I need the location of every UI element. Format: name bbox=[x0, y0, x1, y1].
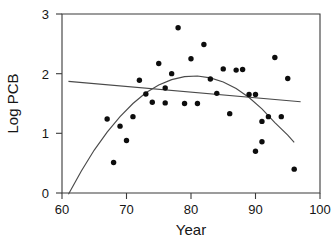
data-point bbox=[285, 76, 290, 81]
data-point bbox=[137, 78, 142, 83]
data-point bbox=[163, 85, 168, 90]
data-point bbox=[259, 119, 264, 124]
data-point bbox=[266, 114, 271, 119]
data-point bbox=[182, 101, 187, 106]
data-point bbox=[124, 138, 129, 143]
data-point bbox=[221, 66, 226, 71]
data-point bbox=[117, 123, 122, 128]
x-tick-label-100: 100 bbox=[309, 202, 331, 217]
data-point bbox=[233, 67, 238, 72]
data-point bbox=[169, 71, 174, 76]
y-axis-title: Log PCB bbox=[4, 73, 21, 133]
y-tick-label-1: 1 bbox=[42, 126, 49, 141]
data-point bbox=[163, 100, 168, 105]
y-tick-label-3: 3 bbox=[42, 7, 49, 22]
data-point bbox=[240, 67, 245, 72]
data-point bbox=[246, 92, 251, 97]
x-tick-label-80: 80 bbox=[184, 202, 198, 217]
plot-svg: 60 70 80 90 100 0 1 2 3 Year Log PCB bbox=[0, 0, 335, 240]
data-point bbox=[150, 100, 155, 105]
data-point bbox=[214, 91, 219, 96]
data-point bbox=[227, 111, 232, 116]
y-tick-label-0: 0 bbox=[42, 186, 49, 201]
x-tick-label-60: 60 bbox=[55, 202, 69, 217]
x-axis-ticks bbox=[62, 193, 320, 199]
data-point bbox=[253, 92, 258, 97]
x-tick-label-70: 70 bbox=[119, 202, 133, 217]
plot-border bbox=[62, 14, 320, 193]
data-point bbox=[175, 25, 180, 30]
x-axis-tick-labels: 60 70 80 90 100 bbox=[55, 202, 331, 217]
quadratic-fit-curve bbox=[68, 76, 294, 194]
y-axis-tick-labels: 0 1 2 3 bbox=[42, 7, 49, 201]
data-point bbox=[111, 160, 116, 165]
data-point bbox=[195, 101, 200, 106]
data-point bbox=[292, 166, 297, 171]
data-point bbox=[259, 139, 264, 144]
data-point bbox=[188, 56, 193, 61]
data-point bbox=[104, 116, 109, 121]
x-tick-label-90: 90 bbox=[248, 202, 262, 217]
data-point bbox=[130, 114, 135, 119]
y-axis-ticks bbox=[56, 14, 62, 193]
data-point bbox=[143, 91, 148, 96]
linear-fit-line bbox=[68, 81, 300, 101]
x-axis-title: Year bbox=[176, 221, 206, 238]
scatter-plot-figure: 60 70 80 90 100 0 1 2 3 Year Log PCB bbox=[0, 0, 335, 240]
data-point bbox=[279, 114, 284, 119]
y-tick-label-2: 2 bbox=[42, 67, 49, 82]
fitted-lines-layer bbox=[68, 76, 300, 194]
data-point bbox=[208, 76, 213, 81]
data-point bbox=[201, 42, 206, 47]
data-point bbox=[253, 149, 258, 154]
data-point bbox=[156, 61, 161, 66]
plot-frame bbox=[62, 14, 320, 193]
data-point bbox=[272, 55, 277, 60]
